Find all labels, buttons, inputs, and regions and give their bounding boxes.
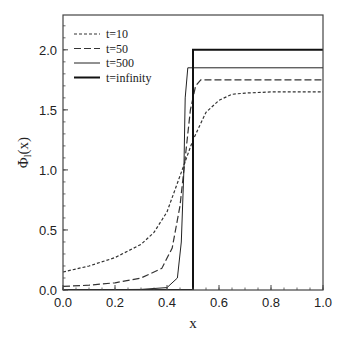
chart: 0.00.20.40.60.81.00.00.51.01.52.0xΦl(x) …: [0, 0, 349, 343]
y-tick-label: 0.5: [39, 223, 57, 238]
y-axis-label: Φl(x): [15, 137, 33, 168]
x-tick-label: 0.6: [210, 295, 228, 310]
legend: t=10t=50t=500t=infinity: [74, 27, 151, 85]
y-tick-label: 0.0: [39, 283, 57, 298]
legend-label: t=50: [106, 42, 128, 56]
legend-label: t=infinity: [106, 71, 151, 85]
x-tick-label: 0.2: [106, 295, 124, 310]
y-tick-label: 1.0: [39, 163, 57, 178]
axes: 0.00.20.40.60.81.00.00.51.01.52.0xΦl(x): [15, 15, 332, 331]
x-tick-label: 1.0: [314, 295, 332, 310]
y-tick-label: 1.5: [39, 103, 57, 118]
legend-label: t=10: [106, 27, 128, 41]
x-tick-label: 0.8: [262, 295, 280, 310]
series-t-infinity: [63, 50, 323, 290]
x-axis-label: x: [189, 315, 197, 331]
y-tick-label: 2.0: [39, 43, 57, 58]
legend-label: t=500: [106, 56, 134, 70]
x-tick-label: 0.4: [158, 295, 176, 310]
plot-area: [63, 50, 323, 290]
